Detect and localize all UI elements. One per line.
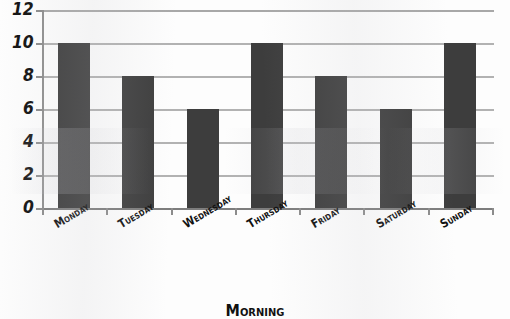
x-label-saturday: Saturday bbox=[374, 197, 418, 230]
x-label-sunday: Sunday bbox=[438, 202, 474, 230]
x-axis-labels: MondayTuesdayWednesdayThursdayFridaySatu… bbox=[0, 0, 510, 319]
x-label-tuesday: Tuesday bbox=[116, 200, 155, 230]
x-label-monday: Monday bbox=[52, 200, 91, 230]
x-label-thursday: Thursday bbox=[245, 197, 290, 231]
x-label-wednesday: Wednesday bbox=[181, 192, 234, 230]
bar-chart-screenshot: 121086420 MondayTuesdayWednesdayThursday… bbox=[0, 0, 510, 319]
x-label-friday: Friday bbox=[309, 204, 342, 230]
x-axis-title: Morning bbox=[26, 303, 485, 319]
